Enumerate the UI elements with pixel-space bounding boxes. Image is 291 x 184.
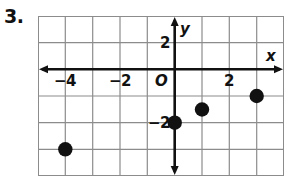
coordinate-grid-graph: −4 −2 2 2 −2 O y x (38, 16, 284, 176)
origin-label: O (155, 74, 168, 89)
x-tick-label-neg4: −4 (54, 74, 76, 89)
problem-number: 3. (4, 7, 23, 26)
worksheet-problem: 3. (0, 0, 291, 184)
x-tick-label-pos2: 2 (224, 74, 234, 89)
data-point (250, 89, 264, 103)
data-point (195, 102, 209, 116)
x-tick-label-neg2: −2 (109, 74, 131, 89)
x-axis-label: x (266, 49, 276, 64)
y-tick-label-pos2: 2 (160, 36, 170, 51)
y-tick-label-neg2: −2 (148, 116, 170, 131)
data-point (58, 142, 72, 156)
y-axis-label: y (180, 22, 190, 37)
